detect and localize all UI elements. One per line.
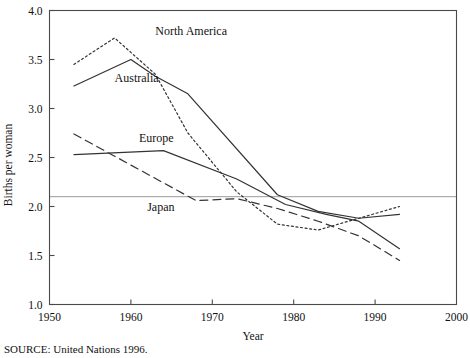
y-tick-label: 3.5: [28, 54, 43, 66]
y-tick-label: 4.0: [28, 5, 43, 17]
series-label-europe: Europe: [139, 131, 174, 145]
fertility-line-chart: 1.01.52.02.53.03.54.0 195019601970198019…: [0, 0, 470, 358]
x-tick-label: 1970: [201, 311, 224, 323]
series-label-north-america: North America: [155, 24, 227, 38]
source-note: SOURCE: United Nations 1996.: [4, 343, 148, 355]
series-label-japan: Japan: [147, 200, 174, 214]
x-tick-label: 1950: [38, 311, 61, 323]
y-tick-label: 2.0: [28, 201, 43, 213]
x-tick-label: 1980: [282, 311, 305, 323]
x-tick-label: 1960: [119, 311, 142, 323]
y-tick-label: 2.5: [28, 152, 43, 164]
series-line-europe: [74, 151, 400, 249]
y-tick-label: 1.0: [28, 299, 43, 311]
y-axis-ticks: 1.01.52.02.53.03.54.0: [28, 5, 54, 311]
y-tick-label: 1.5: [28, 250, 43, 262]
y-axis-title: Births per woman: [2, 124, 15, 207]
x-tick-label: 2000: [445, 311, 468, 323]
series-line-north-america: [74, 38, 400, 230]
y-tick-label: 3.0: [28, 103, 43, 115]
series-label-australia: Australia: [115, 71, 160, 85]
chart-canvas: 1.01.52.02.53.03.54.0 195019601970198019…: [0, 0, 470, 358]
x-tick-label: 1990: [364, 311, 387, 323]
x-axis-ticks: 195019601970198019902000: [38, 300, 468, 323]
x-axis-title: Year: [242, 330, 263, 342]
plot-frame: [50, 11, 457, 305]
